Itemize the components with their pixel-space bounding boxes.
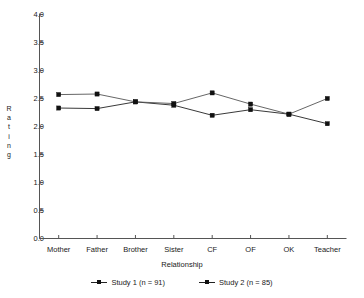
- legend-entry-study-1: Study 1 (n = 91): [91, 278, 165, 287]
- chart-figure: Rating 0.00.51.01.52.02.53.03.54.0 Mothe…: [0, 0, 364, 298]
- legend-label: Study 2 (n = 85): [219, 278, 273, 287]
- x-tick-label: OK: [284, 245, 295, 254]
- x-tick-label: Brother: [123, 245, 148, 254]
- x-tick-label: OF: [245, 245, 255, 254]
- x-tick-label: Mother: [47, 245, 70, 254]
- x-tick-label: CF: [207, 245, 217, 254]
- chart-legend: Study 1 (n = 91) Study 2 (n = 85): [0, 278, 364, 287]
- x-tick-label: Sister: [164, 245, 183, 254]
- x-tick-label: Father: [86, 245, 108, 254]
- legend-entry-study-2: Study 2 (n = 85): [199, 278, 273, 287]
- x-axis-title: Relationship: [0, 260, 364, 269]
- legend-label: Study 1 (n = 91): [111, 278, 165, 287]
- x-tick-label: Teacher: [314, 245, 341, 254]
- legend-marker-icon: [91, 279, 107, 286]
- x-axis-tick-labels: MotherFatherBrotherSisterCFOFOKTeacher: [0, 0, 364, 298]
- legend-marker-icon: [199, 279, 215, 286]
